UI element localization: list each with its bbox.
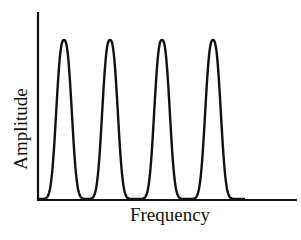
y-axis-label: Amplitude (10, 88, 31, 169)
spectrum-chart: Frequency Amplitude (0, 0, 301, 240)
spectrum-curve (39, 40, 245, 199)
x-axis-label: Frequency (130, 204, 211, 225)
